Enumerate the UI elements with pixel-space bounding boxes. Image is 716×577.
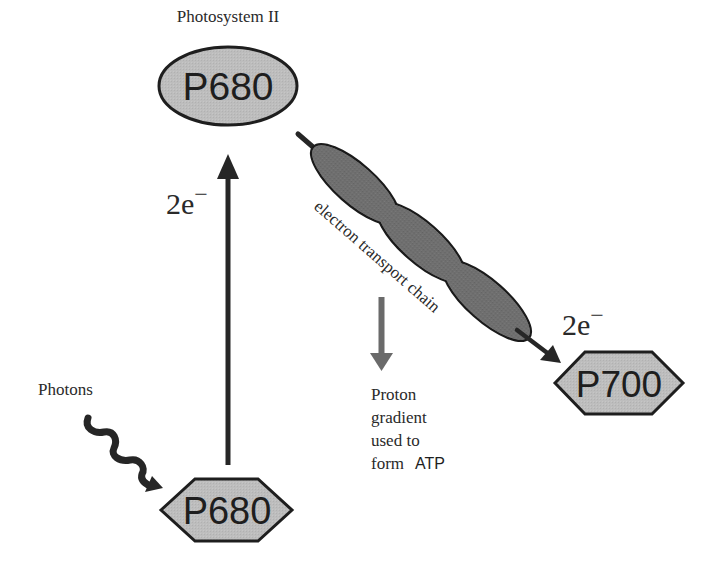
p680-ground-label: P680: [183, 490, 272, 532]
photosystem-label: Photosystem II: [177, 7, 280, 26]
photosystem-diagram: Photosystem II P680 2e− electron transpo…: [0, 0, 716, 577]
grey-arrow-shaft: [379, 297, 385, 355]
electron-transport-chain: [300, 132, 542, 353]
p700-node: P700: [555, 352, 683, 414]
electron-excitation-arrow: [217, 154, 239, 465]
p700-label: P700: [576, 364, 662, 405]
photons-label: Photons: [38, 380, 93, 399]
p680-excited-label: P680: [182, 65, 273, 108]
arrow-up-icon: [217, 154, 239, 179]
photon-wave-arrow: [87, 418, 163, 492]
arrow-shaft: [226, 176, 231, 465]
wave-icon: [87, 418, 150, 486]
p680-ground-node: P680: [161, 479, 292, 541]
atp-label: ATP: [415, 455, 445, 472]
proton-gradient-arrow: [370, 297, 393, 371]
etc-output-arrow: [517, 330, 561, 363]
electrons-up-label: 2e−: [166, 181, 208, 220]
arrow-down-icon: [370, 353, 393, 371]
p680-excited-node: P680: [159, 47, 297, 125]
electrons-out-label: 2e−: [562, 302, 604, 341]
